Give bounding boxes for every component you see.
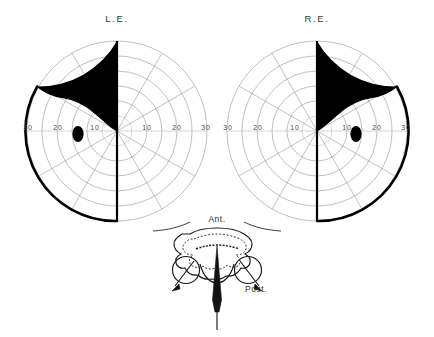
le-tick-temporal-20: 20 — [53, 124, 62, 131]
re-tick-nasal-30: 30 — [223, 124, 232, 131]
right-eye-title: R.E. — [305, 13, 330, 24]
re-tick-temporal-20: 20 — [372, 124, 381, 131]
anterior-label: Ant. — [208, 214, 225, 224]
posterior-label: Post. — [245, 284, 267, 294]
re-blind-spot — [350, 126, 361, 142]
le-tick-temporal-30: 30 — [23, 124, 32, 131]
re-tick-temporal-10: 10 — [342, 124, 351, 131]
re-tick-nasal-10: 10 — [290, 124, 299, 131]
re-tick-nasal-20: 20 — [253, 124, 262, 131]
le-tick-temporal-10: 10 — [90, 124, 99, 131]
re-tick-temporal-30: 30 — [401, 124, 410, 131]
visual-field-figure: L.E. — [0, 0, 434, 337]
le-tick-nasal-10: 10 — [142, 124, 151, 131]
le-tick-nasal-30: 30 — [201, 124, 210, 131]
le-tick-nasal-20: 20 — [172, 124, 181, 131]
le-blind-spot — [72, 126, 83, 142]
left-eye-title: L.E. — [105, 13, 128, 24]
